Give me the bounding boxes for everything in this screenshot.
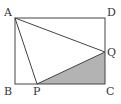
label-q: Q [107, 46, 116, 59]
label-b: B [4, 85, 12, 98]
segment-aq [15, 18, 105, 52]
label-p: P [33, 85, 41, 98]
label-a: A [3, 6, 13, 19]
label-d: D [107, 6, 116, 19]
segment-ap [15, 18, 37, 84]
geometry-diagram: A D B P C Q [0, 0, 121, 104]
label-c: C [106, 85, 114, 98]
